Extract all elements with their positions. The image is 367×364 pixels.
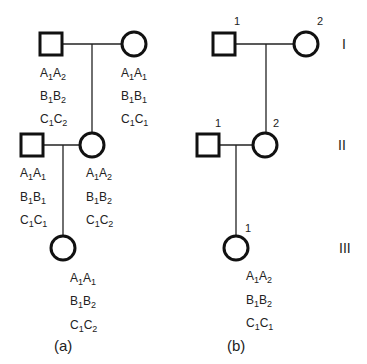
individual-number: 1 — [215, 118, 221, 129]
female-symbol — [253, 133, 277, 157]
pedigree-diagram — [0, 0, 367, 364]
male-symbol — [197, 134, 219, 156]
genotype-c-locus: C1C1 — [246, 317, 273, 332]
genotype-c-locus: C1C2 — [40, 113, 67, 128]
panel-b-pedigree — [197, 32, 318, 260]
genotype-b-locus: B1B1 — [20, 191, 46, 206]
individual-number: 2 — [273, 118, 279, 129]
panel-caption: (a) — [54, 338, 72, 353]
male-symbol — [213, 33, 235, 55]
genotype-a-locus: A1A2 — [86, 167, 112, 182]
female-symbol — [122, 32, 146, 56]
male-symbol — [40, 33, 62, 55]
genotype-a-locus: A1A1 — [20, 167, 46, 182]
genotype-b-locus: B1B2 — [40, 90, 66, 105]
individual-number: 2 — [317, 16, 323, 27]
genotype-a-locus: A1A2 — [40, 67, 66, 82]
female-symbol — [294, 32, 318, 56]
female-symbol — [51, 236, 75, 260]
panel-caption: (b) — [227, 338, 245, 353]
generation-label: II — [338, 138, 346, 152]
generation-label: I — [342, 37, 346, 51]
genotype-a-locus: A1A1 — [70, 272, 96, 287]
female-symbol — [224, 236, 248, 260]
genotype-c-locus: C1C2 — [70, 319, 97, 334]
genotype-b-locus: B1B2 — [246, 294, 272, 309]
genotype-b-locus: B1B2 — [86, 191, 112, 206]
individual-number: 1 — [234, 16, 240, 27]
genotype-a-locus: A1A1 — [121, 67, 147, 82]
genotype-c-locus: C1C2 — [86, 214, 113, 229]
genotype-c-locus: C1C1 — [20, 214, 47, 229]
genotype-a-locus: A1A2 — [246, 270, 272, 285]
genotype-c-locus: C1C1 — [121, 113, 148, 128]
female-symbol — [80, 133, 104, 157]
genotype-b-locus: B1B2 — [70, 295, 96, 310]
individual-number: 1 — [245, 223, 251, 234]
male-symbol — [21, 134, 43, 156]
genotype-b-locus: B1B1 — [121, 90, 147, 105]
generation-label: III — [339, 241, 351, 255]
